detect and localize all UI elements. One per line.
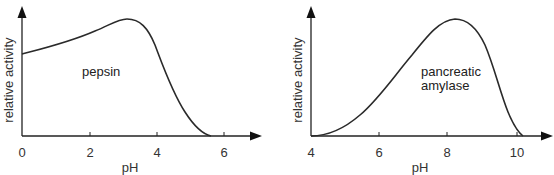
pepsin-label: pepsin [82,64,120,79]
y-axis-arrow-icon [18,6,27,18]
x-tick-4: 4 [153,145,160,160]
amylase-label-line1: pancreatic [421,64,481,79]
x-tick-10: 10 [510,145,524,160]
y-axis-arrow-icon [307,6,316,18]
chart-canvas: 0 2 4 6 pH relative activity pepsin 4 6 … [0,0,554,175]
x-tick-6: 6 [375,145,382,160]
amylase-chart: 4 6 8 10 pH relative activity pancreatic… [290,6,553,175]
pepsin-chart: 0 2 4 6 pH relative activity pepsin [1,6,262,175]
x-axis-label: pH [122,160,139,175]
x-tick-8: 8 [443,145,450,160]
amylase-curve [311,19,523,136]
y-axis-label: relative activity [290,37,305,123]
x-tick-0: 0 [18,145,25,160]
x-axis-arrow-icon [541,132,553,141]
amylase-label-line2: amylase [421,78,469,93]
x-tick-4: 4 [307,145,314,160]
x-axis-arrow-icon [250,132,262,141]
x-tick-2: 2 [86,145,93,160]
x-axis-label: pH [412,160,429,175]
y-axis-label: relative activity [1,37,16,123]
x-tick-6: 6 [220,145,227,160]
